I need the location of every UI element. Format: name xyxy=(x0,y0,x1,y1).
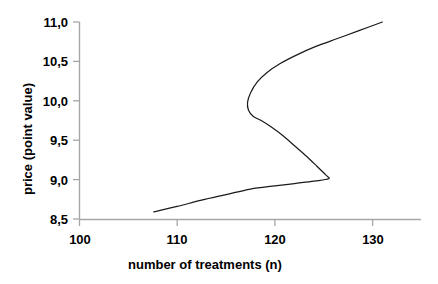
x-axis-ticks xyxy=(80,220,373,227)
y-tick-label-11-0: 11,0 xyxy=(28,16,68,29)
y-tick-label-10-5: 10,5 xyxy=(28,55,68,68)
x-tick-label-120: 120 xyxy=(250,233,300,246)
chart-figure: 11,0 10,5 10,0 9,5 9,0 8,5 100 110 120 1… xyxy=(0,0,438,284)
x-axis-title: number of treatments (n) xyxy=(128,258,282,271)
data-curve xyxy=(154,22,383,212)
x-tick-label-100: 100 xyxy=(55,233,105,246)
y-axis-title: price (point value) xyxy=(21,83,34,195)
x-tick-label-130: 130 xyxy=(348,233,398,246)
y-tick-label-8-5: 8,5 xyxy=(28,213,68,226)
y-axis-ticks xyxy=(73,22,80,219)
x-tick-label-110: 110 xyxy=(152,233,202,246)
